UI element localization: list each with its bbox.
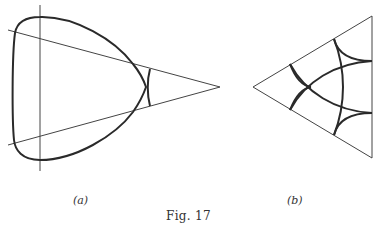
figure-caption: Fig. 17 [166,209,211,223]
figure-canvas [0,0,376,227]
panel-b-label: (b) [287,194,303,207]
panel-a-diagram [8,5,220,171]
outer-triangle [253,16,372,158]
panel-b-diagram [253,16,372,158]
short-chord [148,69,150,106]
panel-a-label: (a) [73,194,88,207]
